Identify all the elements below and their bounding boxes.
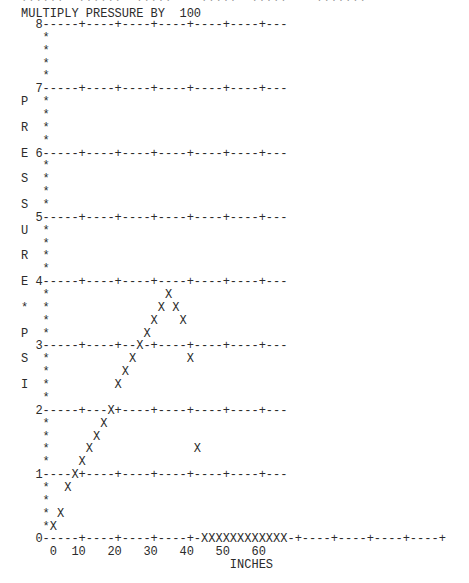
plot-row: 1----X+----+----+----+----+----+--- (21, 469, 446, 482)
plot-row: 2-----+---X+----+----+----+----+--- (21, 405, 446, 418)
plot-row: 5-----+----+----+----+----+----+--- (21, 212, 446, 225)
plot-row: S * (21, 199, 446, 212)
plot-row: * X (21, 418, 446, 431)
plot-row: * (21, 392, 446, 405)
ascii-plot: 8-----+----+----+----+----+----+--- * * … (21, 19, 446, 572)
plot-row: * (21, 32, 446, 45)
plot-row: * (21, 135, 446, 148)
x-axis-label: INCHES (21, 559, 446, 572)
plot-row: R * (21, 122, 446, 135)
plot-row: * X (21, 289, 446, 302)
plot-row: * (21, 186, 446, 199)
plot-row: * X (21, 508, 446, 521)
plot-row: E 6-----+----+----+----+----+----+--- (21, 148, 446, 161)
plot-row: * (21, 160, 446, 173)
plot-row: * (21, 109, 446, 122)
plot-row: * (21, 238, 446, 251)
plot-row: 7-----+----+----+----+----+----+--- (21, 83, 446, 96)
plot-row: R * (21, 250, 446, 263)
clipped-header-line: ?????? ?????? ????? ????? ????? ??????? (21, 0, 367, 5)
plot-row: S * (21, 173, 446, 186)
plot-row: 8-----+----+----+----+----+----+--- (21, 19, 446, 32)
plot-row: U * (21, 225, 446, 238)
plot-row: * (21, 45, 446, 58)
plot-row: * (21, 495, 446, 508)
plot-row: * X (21, 482, 446, 495)
plot-row: I * X (21, 379, 446, 392)
plot-row: * * X X (21, 302, 446, 315)
plot-row: * X X (21, 315, 446, 328)
plot-row: * (21, 58, 446, 71)
plot-row: P * (21, 96, 446, 109)
